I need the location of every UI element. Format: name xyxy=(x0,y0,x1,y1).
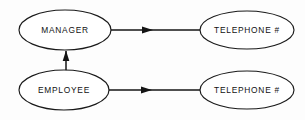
node-telephone-manager-label: TELEPHONE # xyxy=(214,25,280,35)
node-manager[interactable]: MANAGER xyxy=(19,10,111,50)
edge-manager-to-telephone xyxy=(110,27,201,34)
node-telephone-employee[interactable]: TELEPHONE # xyxy=(200,71,294,109)
node-telephone-manager[interactable]: TELEPHONE # xyxy=(200,11,294,49)
arrowhead-right-manager-telephone xyxy=(142,27,153,34)
arrowhead-right-employee-telephone xyxy=(141,87,152,94)
arrowhead-up-employee-manager xyxy=(63,51,70,62)
entity-relationship-diagram: MANAGER TELEPHONE # EMPLOYEE TELEPHONE # xyxy=(0,0,305,120)
edge-employee-to-manager xyxy=(63,51,70,72)
node-telephone-employee-label: TELEPHONE # xyxy=(214,85,280,95)
edge-employee-to-telephone xyxy=(108,87,201,94)
node-manager-label: MANAGER xyxy=(41,25,89,35)
node-employee[interactable]: EMPLOYEE xyxy=(19,70,109,110)
diagram-canvas: MANAGER TELEPHONE # EMPLOYEE TELEPHONE # xyxy=(0,0,305,120)
node-employee-label: EMPLOYEE xyxy=(38,85,90,95)
